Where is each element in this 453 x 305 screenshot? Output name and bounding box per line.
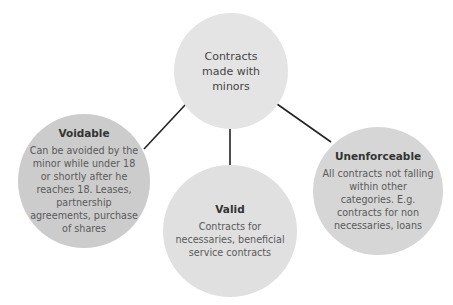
connector-root-voidable: [144, 104, 186, 149]
node-body: All contracts not falling within other c…: [322, 167, 433, 232]
body-line: of shares: [30, 222, 139, 235]
body-line: partnership: [30, 196, 139, 209]
body-line: Can be avoided by the: [30, 144, 139, 157]
body-line: contracts for non: [322, 206, 433, 219]
node-valid: Valid Contracts for necessaries, benefic…: [163, 165, 297, 297]
body-line: agreements, purchase: [30, 209, 139, 222]
root-label-line: Contracts: [204, 49, 257, 64]
body-line: reaches 18. Leases,: [30, 183, 139, 196]
root-node: Contracts made with minors: [174, 13, 288, 129]
body-line: Contracts for: [175, 220, 284, 233]
root-label-line: minors: [212, 79, 250, 94]
connector-root-unenforceable: [277, 104, 331, 142]
body-line: service contracts: [175, 246, 284, 259]
body-line: necessaries, loans: [322, 219, 433, 232]
root-label-line: made with: [202, 64, 260, 79]
body-line: or shortly after he: [30, 170, 139, 183]
body-line: necessaries, beneficial: [175, 233, 284, 246]
node-body: Contracts for necessaries, beneficial se…: [175, 220, 284, 259]
body-line: categories. E.g.: [322, 193, 433, 206]
body-line: All contracts not falling: [322, 167, 433, 180]
node-body: Can be avoided by the minor while under …: [30, 144, 139, 235]
node-title: Voidable: [58, 127, 109, 139]
node-unenforceable: Unenforceable All contracts not falling …: [313, 127, 443, 255]
body-line: within other: [322, 180, 433, 193]
node-voidable: Voidable Can be avoided by the minor whi…: [18, 114, 150, 248]
node-title: Valid: [215, 203, 244, 215]
body-line: minor while under 18: [30, 157, 139, 170]
node-title: Unenforceable: [335, 150, 421, 162]
